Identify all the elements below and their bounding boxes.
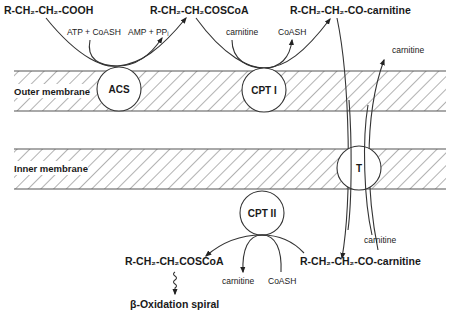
cpt2-input-coash: CoASH xyxy=(268,276,296,286)
cpt2-reaction: CPT II carnitine CoASH xyxy=(206,191,304,286)
inner-membrane-label: Inner membrane xyxy=(14,163,88,174)
translocase: T carnitine carnitine xyxy=(337,18,424,258)
cpt1-label: CPT I xyxy=(251,85,277,96)
beta-oxidation-label: β-Oxidation spiral xyxy=(130,298,219,310)
translocase-label: T xyxy=(356,163,362,174)
cpt1-input-carnitine: carnitine xyxy=(226,27,258,37)
acyl-carnitine-inner-label: R-CH₂-CH₂-CO-carnitine xyxy=(300,255,421,267)
acs-label: ACS xyxy=(108,84,129,95)
carnitine-shuttle-diagram: Outer membrane Inner membrane R-CH₂-CH₂-… xyxy=(0,0,452,321)
acs-input-cofactors: ATP + CoASH xyxy=(67,27,121,37)
cpt2-label: CPT II xyxy=(248,208,277,219)
cpt2-output-carnitine: carnitine xyxy=(222,276,254,286)
acyl-carnitine-outer-label: R-CH₂-CH₂-CO-carnitine xyxy=(290,4,411,16)
outer-membrane: Outer membrane xyxy=(12,71,446,111)
fatty-acid-label: R-CH₂-CH₂-COOH xyxy=(4,4,93,16)
carnitine-return-bottom-label: carnitine xyxy=(364,235,396,245)
carnitine-return-top-label: carnitine xyxy=(392,45,424,55)
acs-output-cofactors: AMP + PPᵢ xyxy=(128,27,169,37)
cpt1-output-coash: CoASH xyxy=(278,27,306,37)
outer-membrane-label: Outer membrane xyxy=(14,86,90,97)
acyl-coa-outer-label: R-CH₂-CH₂COSCoA xyxy=(150,4,249,16)
beta-oxidation-arrow xyxy=(174,272,177,294)
acyl-coa-inner-label: R-CH₂-CH₂COSCoA xyxy=(125,255,224,267)
